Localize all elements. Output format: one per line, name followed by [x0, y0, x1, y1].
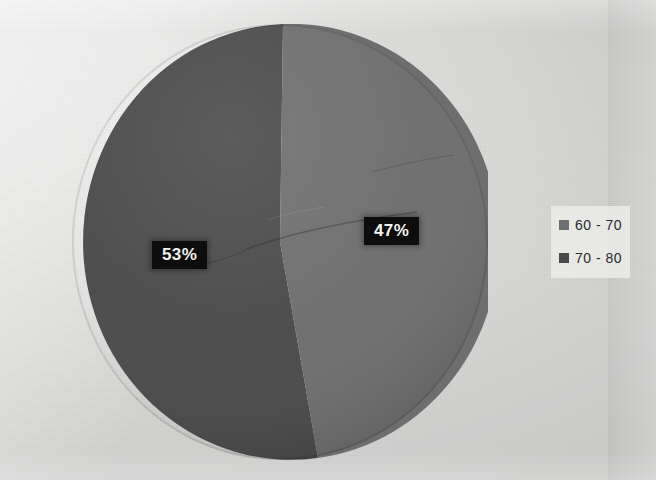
legend-swatch-icon-70-80 — [559, 253, 569, 263]
legend: 60 - 70 70 - 80 — [551, 206, 630, 278]
legend-label-60-70: 60 - 70 — [575, 217, 622, 233]
legend-swatch-icon-60-70 — [559, 220, 569, 230]
data-label-53: 53% — [152, 241, 207, 269]
pie-chart-screenshot: 53% 47% 60 - 70 70 - 80 — [0, 0, 656, 480]
pie-chart-svg — [72, 24, 488, 460]
pie-shading-overlay — [72, 24, 488, 460]
legend-item-60-70[interactable]: 60 - 70 — [559, 214, 622, 236]
legend-label-70-80: 70 - 80 — [575, 250, 622, 266]
data-label-47: 47% — [364, 217, 419, 245]
pie-chart — [72, 24, 488, 460]
legend-item-70-80[interactable]: 70 - 80 — [559, 247, 622, 269]
